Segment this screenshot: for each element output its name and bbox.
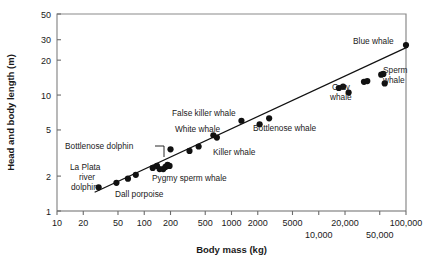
annotation-dall-porpoise: Dall porpoise bbox=[115, 189, 164, 199]
data-point bbox=[196, 143, 202, 149]
x-tick-label-2000: 2000 bbox=[248, 218, 268, 228]
x-axis-title: Body mass (kg) bbox=[196, 244, 267, 255]
annotation-false-killer-whale: False killer whale bbox=[172, 108, 236, 118]
x-tick-label-5000: 5000 bbox=[282, 218, 302, 228]
chart-root: 10205010020050010002000500010,00020,0005… bbox=[0, 0, 426, 261]
y-tick-label-50: 50 bbox=[41, 10, 51, 20]
annotation-gray-whale-line2: whale bbox=[329, 92, 352, 102]
annotation-pygmy-sperm-whale: Pygmy sperm whale bbox=[152, 173, 227, 183]
data-point bbox=[266, 115, 272, 121]
annotation-gray-whale-line1: Gray bbox=[332, 82, 351, 92]
x-tick-label-10: 10 bbox=[52, 218, 62, 228]
y-tick-label-5: 5 bbox=[46, 125, 51, 135]
chart-svg: 10205010020050010002000500010,00020,0005… bbox=[0, 0, 426, 261]
annotation-la-plata-line2: river bbox=[79, 172, 95, 182]
y-tick-label-30: 30 bbox=[41, 35, 51, 45]
data-point bbox=[238, 118, 244, 124]
x-tick-label-500: 500 bbox=[198, 218, 213, 228]
data-point bbox=[125, 176, 131, 182]
data-point bbox=[403, 42, 409, 48]
annotation-blue-whale: Blue whale bbox=[353, 36, 394, 46]
x-tick-label-50000: 50,000 bbox=[366, 230, 394, 240]
x-tick-label-50: 50 bbox=[113, 218, 123, 228]
y-tick-label-20: 20 bbox=[41, 56, 51, 66]
annotation-la-plata-line3: dolphin bbox=[71, 182, 98, 192]
x-tick-label-10000: 10,000 bbox=[305, 230, 333, 240]
trend-line bbox=[95, 47, 408, 192]
annotation-la-plata-line1: La Plata bbox=[70, 162, 101, 172]
y-tick-label-1: 1 bbox=[46, 207, 51, 217]
x-tick-label-20000: 20,000 bbox=[331, 218, 359, 228]
annotation-bottlenose-whale: Bottlenose whale bbox=[253, 123, 317, 133]
x-tick-label-200: 200 bbox=[163, 218, 178, 228]
x-tick-label-1000: 1000 bbox=[221, 218, 241, 228]
annotation-bottlenose-dolphin: Bottlenose dolphin bbox=[65, 141, 134, 151]
x-tick-label-20: 20 bbox=[78, 218, 88, 228]
x-tick-label-100: 100 bbox=[137, 218, 152, 228]
data-point bbox=[166, 163, 172, 169]
data-point bbox=[186, 148, 192, 154]
y-axis-title: Head and body length (m) bbox=[5, 54, 16, 171]
data-point bbox=[167, 146, 173, 152]
annotation-killer-whale: Killer whale bbox=[213, 147, 256, 157]
data-point bbox=[133, 172, 139, 178]
bottlenose-dolphin-leader-line bbox=[155, 146, 164, 157]
annotation-white-whale: White whale bbox=[175, 124, 221, 134]
y-tick-label-2: 2 bbox=[46, 172, 51, 182]
annotation-sperm-whale-line2: whale bbox=[382, 75, 405, 85]
data-point bbox=[214, 134, 220, 140]
x-tick-label-100000: 100,000 bbox=[390, 218, 423, 228]
y-tick-label-10: 10 bbox=[41, 91, 51, 101]
data-point bbox=[113, 180, 119, 186]
annotation-sperm-whale-line1: Sperm bbox=[383, 65, 408, 75]
data-point bbox=[364, 78, 370, 84]
scatter-plot-figure: 10205010020050010002000500010,00020,0005… bbox=[0, 0, 426, 261]
